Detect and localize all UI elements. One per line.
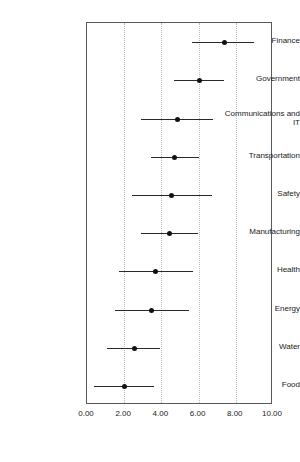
category-label: Manufacturing [218, 227, 300, 237]
x-tick-label: 8.00 [215, 409, 255, 418]
gridline [124, 23, 126, 403]
data-point-marker [167, 231, 172, 236]
data-point-marker [122, 384, 127, 389]
data-point-marker [172, 155, 177, 160]
dot-plot-chart: FinanceGovernmentCommunications and ITTr… [0, 0, 300, 462]
data-point-marker [197, 78, 202, 83]
data-point-marker [175, 117, 180, 122]
x-tick-label: 0.00 [66, 409, 106, 418]
category-label: Health [218, 266, 300, 276]
x-tick-label: 2.00 [103, 409, 143, 418]
category-label: Finance [218, 36, 300, 46]
category-label: Safety [218, 189, 300, 199]
category-label: Food [218, 380, 300, 390]
x-tick-label: 4.00 [140, 409, 180, 418]
data-point-marker [149, 308, 154, 313]
data-point-marker [169, 193, 174, 198]
x-tick-label: 10.00 [252, 409, 292, 418]
category-label: Water [218, 342, 300, 352]
category-label: Government [218, 75, 300, 85]
category-label: Energy [218, 304, 300, 314]
x-tick-label: 6.00 [178, 409, 218, 418]
data-point-marker [132, 346, 137, 351]
category-label: Communications and IT [218, 108, 300, 127]
category-label: Transportation [218, 151, 300, 161]
data-point-marker [153, 269, 158, 274]
gridline [161, 23, 163, 403]
